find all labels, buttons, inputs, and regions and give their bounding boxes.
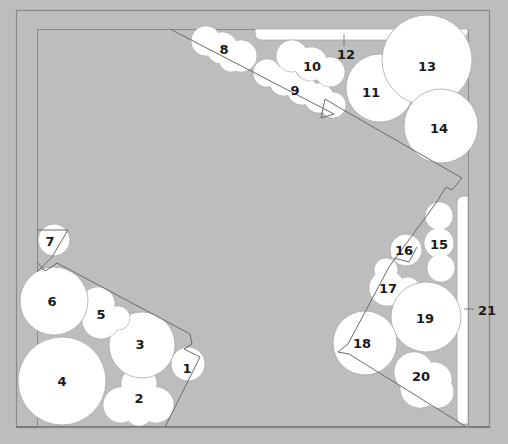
- plant-canopy-fill: [428, 255, 455, 282]
- plant-label-12: 12: [337, 47, 355, 62]
- plant-label-5: 5: [96, 307, 105, 322]
- plant-label-18: 18: [353, 336, 371, 351]
- plant-label-10: 10: [303, 59, 321, 74]
- planting-plan: 123456789101112131415161719182021: [0, 0, 508, 444]
- plant-label-1: 1: [182, 361, 191, 376]
- plant-label-17: 17: [379, 281, 397, 296]
- plant-label-3: 3: [135, 337, 144, 352]
- plant-label-19: 19: [416, 311, 434, 326]
- plant-canopy-fill: [107, 307, 130, 330]
- plant-label-7: 7: [45, 234, 54, 249]
- plant-label-11: 11: [362, 85, 380, 100]
- plant-label-13: 13: [418, 59, 436, 74]
- plants-layer: [18, 15, 478, 426]
- plant-label-8: 8: [219, 42, 228, 57]
- plant-label-16: 16: [395, 243, 413, 258]
- plant-label-20: 20: [412, 369, 430, 384]
- plant-label-15: 15: [430, 237, 448, 252]
- plant-label-9: 9: [290, 83, 299, 98]
- plant-label-6: 6: [47, 294, 56, 309]
- plant-label-4: 4: [57, 374, 66, 389]
- plant-label-2: 2: [134, 391, 143, 406]
- plant-label-21: 21: [478, 303, 496, 318]
- plant-canopy-fill: [426, 203, 453, 230]
- plant-label-14: 14: [430, 121, 448, 136]
